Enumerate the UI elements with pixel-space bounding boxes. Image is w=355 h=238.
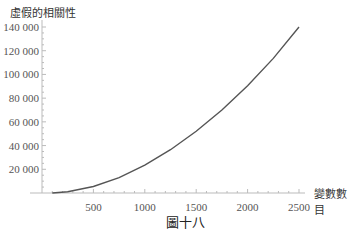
chart: 500100015002000250020 00040 00060 00080 … xyxy=(0,0,355,238)
x-axis-label: 變數數目 xyxy=(314,185,355,217)
x-tick-label: 2500 xyxy=(288,201,311,213)
y-tick-label: 60 000 xyxy=(9,116,40,128)
figure-caption: 圖十八 xyxy=(166,212,205,231)
x-tick-label: 1000 xyxy=(134,201,157,213)
y-tick-label: 40 000 xyxy=(9,140,40,152)
axes xyxy=(30,20,305,193)
y-tick-label: 120 000 xyxy=(3,45,39,57)
x-tick-label: 500 xyxy=(85,201,102,213)
y-tick-label: 140 000 xyxy=(3,21,39,33)
y-tick-label: 20 000 xyxy=(9,163,40,175)
y-tick-label: 100 000 xyxy=(3,68,39,80)
data-curve xyxy=(52,27,299,193)
ticks: 500100015002000250020 00040 00060 00080 … xyxy=(3,21,310,213)
x-tick-label: 2000 xyxy=(237,201,260,213)
y-axis-label: 虛假的相關性 xyxy=(10,4,76,20)
y-tick-label: 80 000 xyxy=(9,92,40,104)
